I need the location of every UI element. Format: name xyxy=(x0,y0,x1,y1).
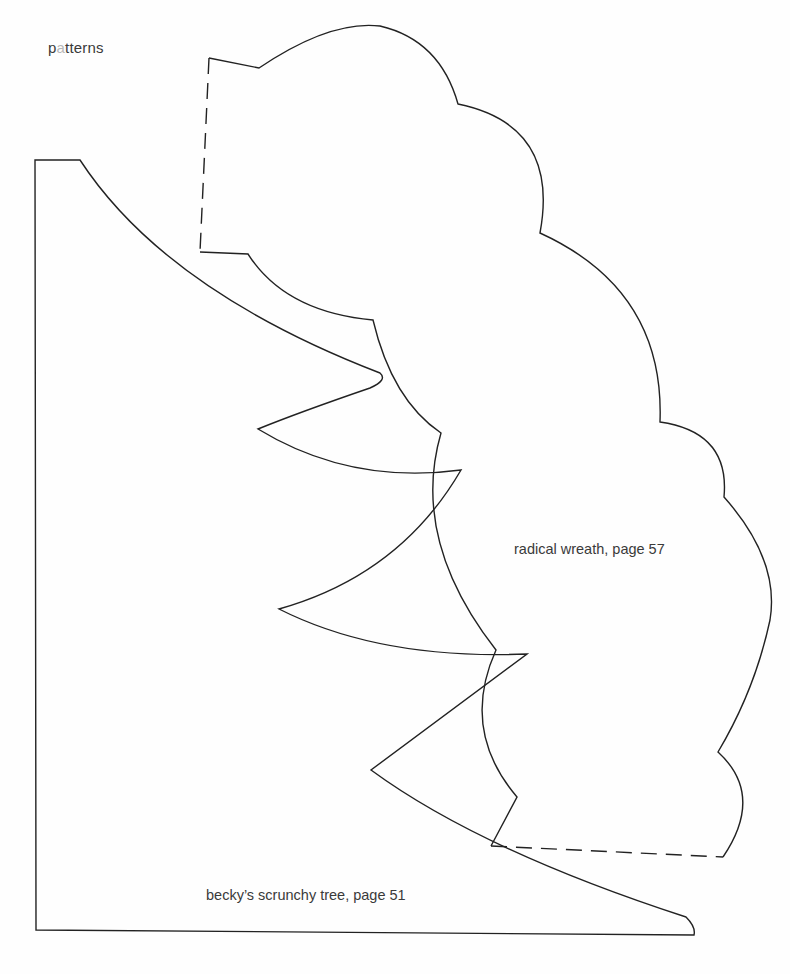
wreath-fold-line-left xyxy=(200,58,209,252)
pattern-page: patterns radical wreath, page 57 becky’s… xyxy=(0,0,790,974)
pattern-shapes xyxy=(0,0,790,974)
radical-wreath-label: radical wreath, page 57 xyxy=(514,541,665,557)
radical-wreath-outline xyxy=(200,252,517,846)
wreath-fold-line-bottom xyxy=(491,846,723,857)
radical-wreath-outline-right xyxy=(209,25,772,857)
scrunchy-tree-label: becky’s scrunchy tree, page 51 xyxy=(206,887,406,903)
